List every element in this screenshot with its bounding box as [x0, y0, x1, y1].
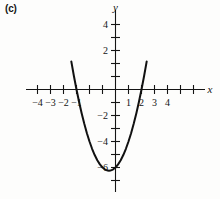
parabola-figure: (c) — [0, 0, 220, 199]
x-tick-label-neg3: −3 — [45, 97, 56, 108]
x-tick-label-4: 4 — [165, 97, 170, 108]
y-tick-label-neg4: −4 — [97, 136, 108, 147]
y-tick-label-neg2: −2 — [97, 110, 108, 121]
y-tick-label-2: 2 — [103, 45, 108, 56]
x-tick-label-neg2: −2 — [58, 97, 69, 108]
x-axis-label: x — [207, 83, 213, 95]
y-tick-label-4: 4 — [103, 19, 108, 30]
x-tick-label-neg4: −4 — [32, 97, 43, 108]
parabola-curve — [71, 61, 146, 170]
y-axis-label: y — [112, 1, 118, 13]
plot-canvas: −4 −3 −2 −1 1 2 3 4 4 2 −2 −4 −6 x y — [0, 0, 220, 199]
x-tick-label-1: 1 — [126, 97, 131, 108]
x-tick-label-3: 3 — [152, 97, 157, 108]
